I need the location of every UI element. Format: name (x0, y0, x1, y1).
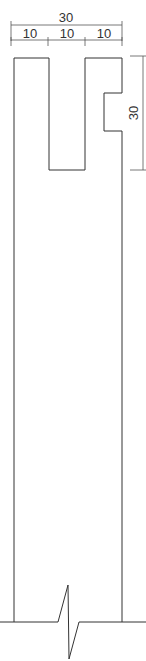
break-line (0, 585, 146, 659)
technical-drawing: 30 10 10 10 30 (0, 0, 146, 661)
beam-outline (14, 58, 122, 622)
segment-2-label: 10 (60, 26, 74, 41)
segment-dimensions: 10 10 10 (11, 26, 122, 46)
segment-1-label: 10 (23, 26, 37, 41)
notch-height-label: 30 (126, 106, 141, 120)
segment-3-label: 10 (97, 26, 111, 41)
overall-width-label: 30 (59, 10, 73, 25)
notch-height-dimension: 30 (126, 56, 146, 170)
